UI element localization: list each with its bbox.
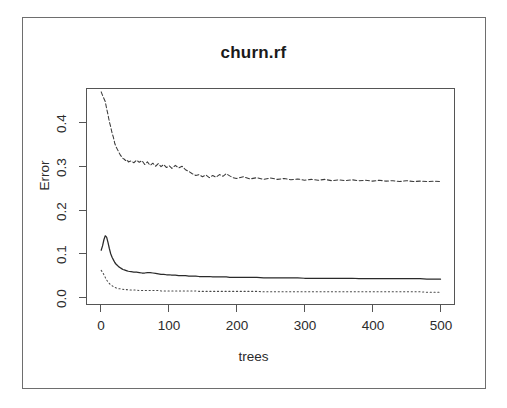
x-axis-ticks (101, 305, 441, 313)
y-axis-ticks (79, 123, 87, 298)
churn-rf-error-plot: churn.rf (0, 0, 507, 408)
ytick-label-0: 0.4 (54, 107, 69, 141)
xtick-label-3: 300 (285, 318, 325, 333)
series-line-oob-error (101, 236, 440, 279)
data-series-layer (101, 92, 440, 292)
xtick-label-1: 100 (149, 318, 189, 333)
xtick-label-4: 400 (353, 318, 393, 333)
series-line-class-yes-error (101, 92, 440, 182)
xtick-label-0: 0 (81, 318, 121, 333)
ytick-label-4: 0.0 (54, 282, 69, 316)
x-axis-label: trees (0, 349, 507, 364)
y-axis-label: Error (37, 146, 52, 206)
ytick-label-3: 0.1 (54, 238, 69, 272)
chart-canvas (0, 0, 507, 408)
series-line-class-no-error (101, 270, 440, 292)
xtick-label-2: 200 (217, 318, 257, 333)
plot-area-border (87, 89, 455, 305)
xtick-label-5: 500 (421, 318, 461, 333)
ytick-label-2: 0.2 (54, 195, 69, 229)
page-root: churn.rf (0, 0, 507, 408)
ytick-label-1: 0.3 (54, 151, 69, 185)
